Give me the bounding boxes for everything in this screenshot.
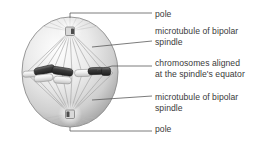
label-microtubule-top-1: microtubule of bipolar <box>155 26 238 37</box>
mitosis-metaphase-figure: pole microtubule of bipolar spindle chro… <box>0 0 280 144</box>
label-microtubule-bot-2: spindle <box>155 103 183 114</box>
chromosome <box>53 76 71 84</box>
label-microtubule-top-2: spindle <box>155 37 183 48</box>
label-pole-bottom: pole <box>155 124 171 135</box>
label-chromosomes-1: chromosomes aligned <box>155 58 240 69</box>
label-chromosomes-2: at the spindle's equator <box>155 69 245 80</box>
bottom-centriole-core <box>67 112 70 118</box>
leader-pole-top <box>70 13 152 18</box>
label-pole-top: pole <box>155 9 171 20</box>
leader-pole-bottom <box>70 127 152 131</box>
bottom-pole-centrosome <box>66 110 75 119</box>
top-pole-centrosome <box>66 27 75 36</box>
top-centriole-core <box>71 29 74 35</box>
label-microtubule-bot-1: microtubule of bipolar <box>155 92 238 103</box>
